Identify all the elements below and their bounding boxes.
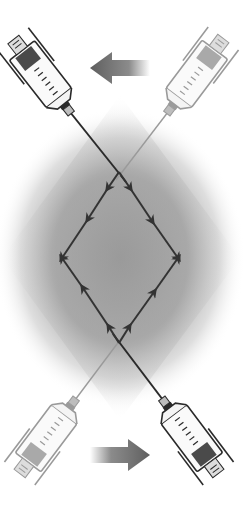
syringe-transfer-diagram: Two-syringe transfer technique: syringes… [0, 0, 243, 505]
syringe-top-right [152, 27, 239, 125]
diagram-svg [0, 0, 243, 505]
syringe-bottom-left [4, 387, 91, 485]
arrow-right-icon [90, 439, 150, 471]
arrow-left-icon [90, 52, 150, 84]
syringe-top-left [0, 28, 86, 125]
background-glow [0, 95, 243, 420]
syringe-bottom-right [147, 387, 234, 485]
